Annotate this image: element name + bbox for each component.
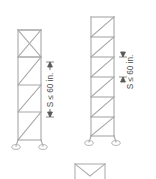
right-tower-diagonal bbox=[91, 97, 114, 117]
left-tower-diagonal-bracing bbox=[18, 30, 41, 140]
technical-drawing-canvas: S ≤ 60 in. S ≤ 60 i bbox=[0, 0, 156, 179]
right-tower-base-supports bbox=[85, 141, 120, 146]
dim-arrow-down-icon bbox=[121, 52, 126, 57]
dim-arrow-up-icon bbox=[48, 62, 53, 67]
right-tower-diagonal bbox=[91, 117, 114, 136]
left-dimension-label: S ≤ 60 in. bbox=[46, 73, 55, 108]
right-dimension-label: S ≤ 60 in. bbox=[126, 55, 135, 90]
right-tower-diagonal bbox=[91, 57, 114, 77]
dim-arrow-down-icon bbox=[48, 112, 53, 117]
right-tower-diagonal bbox=[91, 17, 114, 37]
left-tower-base-supports bbox=[12, 145, 47, 150]
dim-arrow-up-icon bbox=[121, 77, 126, 82]
right-tower-diagonal bbox=[91, 37, 114, 57]
left-tower-figure bbox=[16, 30, 43, 146]
bottom-truss-detail bbox=[75, 164, 105, 179]
detail-v-bracing bbox=[75, 164, 105, 176]
right-tower-figure bbox=[89, 17, 116, 142]
right-tower-diagonal bbox=[91, 77, 114, 97]
